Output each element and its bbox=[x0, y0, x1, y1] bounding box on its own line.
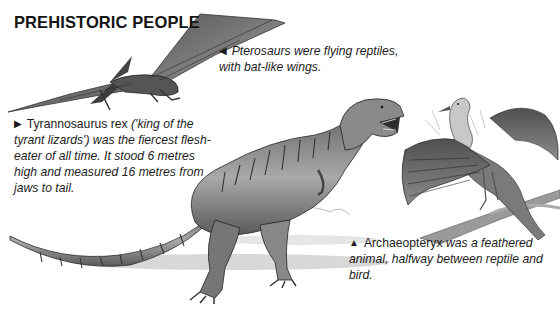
archaeopteryx-caption-lead: Archaeopteryx bbox=[364, 236, 443, 250]
archaeopteryx-illustration bbox=[402, 98, 560, 244]
up-pointing-triangle-icon: ▲ bbox=[349, 235, 359, 251]
right-pointing-triangle-icon: ▶ bbox=[14, 116, 22, 132]
pterosaur-caption-text: Pterosaurs were flying reptiles, with ba… bbox=[219, 44, 398, 74]
archaeopteryx-caption: ▲Archaeopteryx was a feathered animal, h… bbox=[349, 235, 559, 283]
left-pointing-triangle-icon: ◀ bbox=[219, 43, 227, 59]
trex-caption-lead: Tyrannosaurus rex bbox=[27, 117, 128, 131]
pterosaur-caption: ◀Pterosaurs were flying reptiles, with b… bbox=[219, 43, 399, 75]
trex-caption: ▶Tyrannosaurus rex ('king of the tyrant … bbox=[14, 116, 219, 196]
page-title: PREHISTORIC PEOPLE bbox=[14, 13, 200, 32]
